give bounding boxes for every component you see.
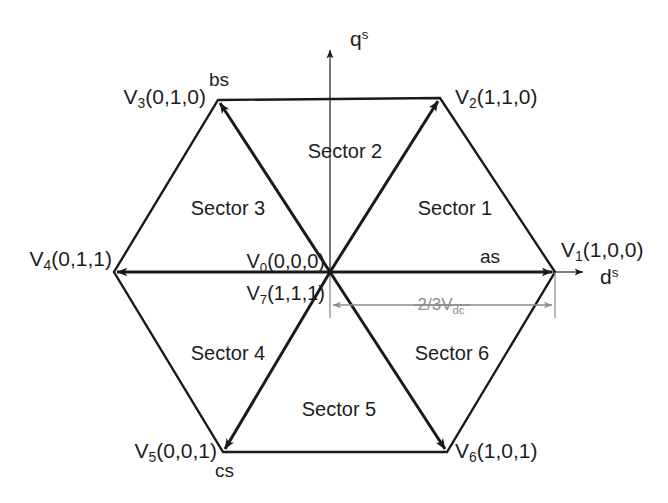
vector-label-v6: V6(1,0,1) <box>455 440 537 465</box>
zero-vector-label-v0: V0(0,0,0) <box>247 251 326 274</box>
vector-label-v5: V5(0,0,1) <box>135 440 217 465</box>
vector-arrow-v3 <box>220 103 330 272</box>
sector-label-3: Sector 3 <box>191 198 265 218</box>
sector-label-4: Sector 4 <box>191 343 265 363</box>
d-axis-label: ds <box>600 266 618 287</box>
vector-label-v4: V4(0,1,1) <box>30 248 112 273</box>
phase-axis-label-as: as <box>480 247 500 266</box>
sector-label-5: Sector 5 <box>302 399 376 419</box>
q-axis-label: qs <box>350 28 368 49</box>
phase-axis-label-bs: bs <box>209 70 229 89</box>
sector-label-1: Sector 1 <box>418 198 492 218</box>
sector-label-6: Sector 6 <box>415 343 489 363</box>
vector-arrow-v2 <box>330 101 438 272</box>
phase-axis-label-cs: cs <box>215 461 234 480</box>
vector-label-v2: V2(1,1,0) <box>455 86 537 111</box>
space-vector-diagram: qs ds as bs cs V1(1,0,0) V2(1,1,0) V3(0,… <box>0 0 668 503</box>
vector-label-v1: V1(1,0,0) <box>561 239 643 264</box>
vector-label-v3: V3(0,1,0) <box>124 86 206 111</box>
zero-vector-label-v7: V7(1,1,1) <box>247 283 326 306</box>
dimension-label-2-3-vdc: 2/3Vdc <box>418 296 465 316</box>
sector-label-2: Sector 2 <box>308 141 382 161</box>
